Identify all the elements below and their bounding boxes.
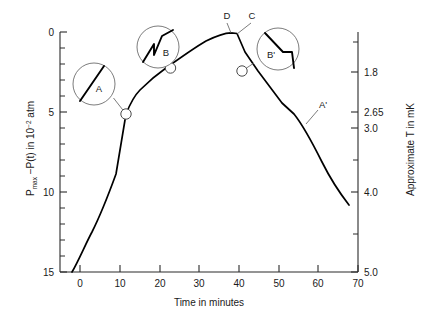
chart-svg: 0 5 10 15 Pmax −P(t) in 10−2 atm 0 10 20… xyxy=(0,0,423,314)
point-annotation-D: C xyxy=(237,10,256,34)
svg-text:Pmax −P(t) in 10−2 atm: Pmax −P(t) in 10−2 atm xyxy=(25,101,38,196)
right-axis-ticklabels: 1.8 2.65 3.0 4.0 5.0 xyxy=(364,67,384,278)
x-tick-label: 40 xyxy=(233,278,245,289)
right-tick-label: 1.8 xyxy=(364,67,378,78)
x-tick-label: 60 xyxy=(312,278,324,289)
x-tick-label: 50 xyxy=(273,278,285,289)
leader-line-D xyxy=(237,23,251,34)
left-axis-ticks xyxy=(60,32,67,272)
x-tick-label: 20 xyxy=(154,278,166,289)
inset-annotation-B-prime[interactable]: B' xyxy=(237,28,299,76)
inset-annotation-A[interactable]: A xyxy=(73,63,131,119)
point-annotation-A-prime: A' xyxy=(306,99,327,124)
magnifier-circle-A[interactable] xyxy=(73,63,115,105)
point-annotation-C: D xyxy=(224,10,231,33)
right-axis-title: Approximate T in mK xyxy=(405,103,416,196)
left-axis-title: Pmax −P(t) in 10−2 atm xyxy=(25,101,38,196)
inset-annotation-B[interactable]: B xyxy=(137,26,179,73)
left-tick-label: 15 xyxy=(43,267,55,278)
bottom-axis-ticks xyxy=(80,265,358,272)
inset-label-A: A xyxy=(96,83,103,94)
left-tick-label: 0 xyxy=(48,27,54,38)
x-axis-title: Time in minutes xyxy=(174,297,244,308)
x-tick-label: 30 xyxy=(193,278,205,289)
left-tick-label: 10 xyxy=(43,187,55,198)
bottom-axis-ticklabels: 0 10 20 30 40 50 60 70 xyxy=(77,278,364,289)
left-axis-ticklabels: 0 5 10 15 xyxy=(43,27,55,278)
point-label-A-prime: A' xyxy=(319,99,327,110)
right-axis-ticks xyxy=(351,42,358,272)
leader-line-A-prime xyxy=(306,110,318,124)
point-label-C: D xyxy=(224,10,231,21)
ylabel-tail: atm xyxy=(25,101,36,120)
data-curve xyxy=(72,33,349,272)
ylabel-mid: −P(t) in 10 xyxy=(25,127,36,177)
point-label-D: C xyxy=(249,10,256,21)
right-tick-label: 3.0 xyxy=(364,123,378,134)
x-tick-label: 0 xyxy=(77,278,83,289)
right-tick-label: 4.0 xyxy=(364,187,378,198)
right-tick-label: 2.65 xyxy=(364,107,384,118)
left-tick-label: 5 xyxy=(48,107,54,118)
x-tick-label: 70 xyxy=(352,278,364,289)
right-tick-label: 5.0 xyxy=(364,267,378,278)
leader-line-C xyxy=(227,23,231,33)
inset-label-B: B xyxy=(163,47,169,58)
figure-container: 0 5 10 15 Pmax −P(t) in 10−2 atm 0 10 20… xyxy=(0,0,423,314)
x-tick-label: 10 xyxy=(114,278,126,289)
curve-marker-B-prime[interactable] xyxy=(237,66,247,76)
inset-label-B-prime: B' xyxy=(267,49,275,60)
curve-marker-A[interactable] xyxy=(121,109,131,119)
ylabel-sub: max xyxy=(31,176,38,189)
